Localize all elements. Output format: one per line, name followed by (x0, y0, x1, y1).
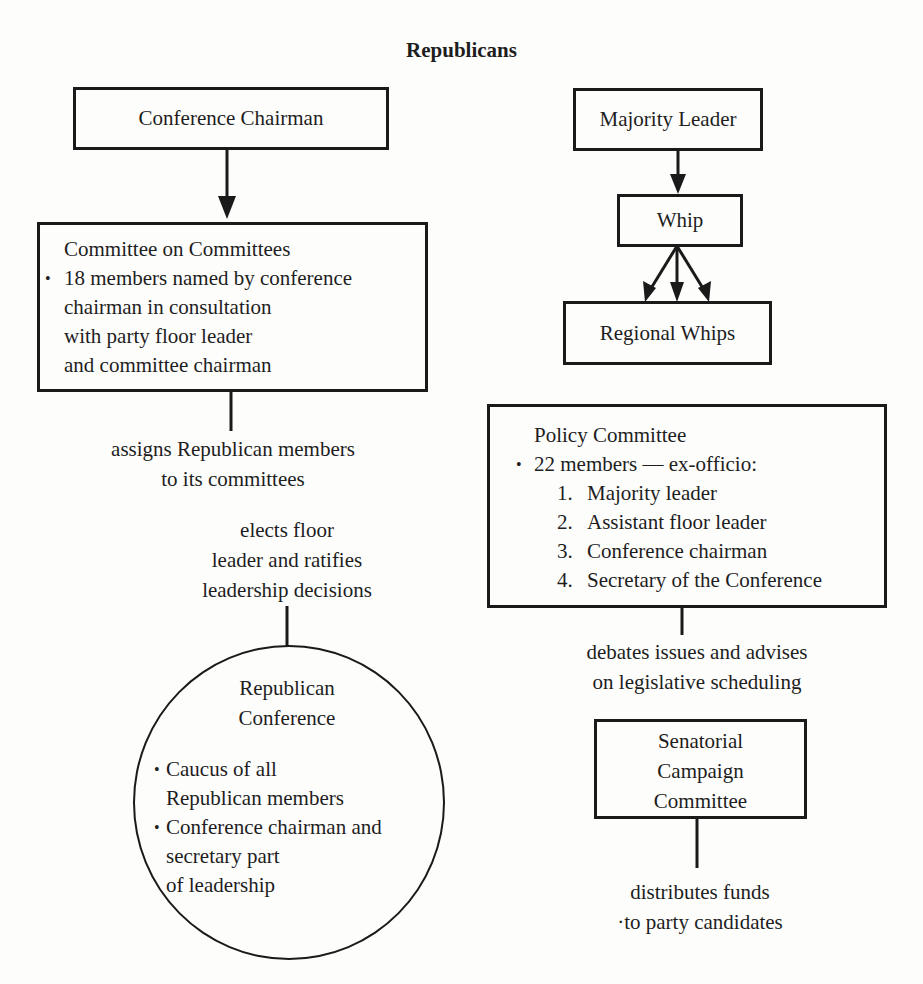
elects-floor-leader-note: elects floor leader and ratifies leaders… (167, 515, 407, 605)
regional-whips-label: Regional Whips (600, 321, 736, 346)
senatorial-campaign-committee-box: Senatorial Campaign Committee (594, 719, 807, 819)
policy-ex-officio-list: 1.Majority leader 2.Assistant floor lead… (534, 479, 884, 595)
policy-item-3: 3.Conference chairman (557, 537, 884, 566)
distributes-funds-note: distributes funds ·to party candidates (580, 877, 820, 937)
whip-label: Whip (657, 208, 704, 233)
committee-on-committees-box: Committee on Committees 18 members named… (37, 222, 428, 392)
debates-issues-note: debates issues and advises on legislativ… (547, 637, 847, 697)
policy-item-4: 4.Secretary of the Conference (557, 566, 884, 595)
conference-chairman-label: Conference Chairman (139, 106, 324, 131)
policy-item-2: 2.Assistant floor leader (557, 508, 884, 537)
majority-leader-label: Majority Leader (599, 107, 736, 132)
conference-chairman-box: Conference Chairman (73, 87, 389, 150)
arrows-whip-to-regional-whips (643, 246, 711, 302)
arrow-majority-leader-to-whip (670, 150, 686, 194)
conference-bullet-caucus: Caucus of all Republican members (148, 755, 450, 813)
regional-whips-box: Regional Whips (563, 301, 772, 365)
republican-conference-title: Republican Conference (187, 673, 387, 733)
policy-committee-box: Policy Committee 22 members — ex-officio… (487, 404, 887, 608)
policy-committee-title: Policy Committee (534, 421, 884, 450)
policy-item-1: 1.Majority leader (557, 479, 884, 508)
committee-membership-bullet: 18 members named by conference chairman … (39, 264, 425, 380)
republican-conference-bullets: Caucus of all Republican members Confere… (150, 755, 450, 900)
assigns-members-note: assigns Republican members to its commit… (83, 434, 383, 494)
whip-box: Whip (617, 194, 743, 247)
senatorial-campaign-committee-label: Senatorial Campaign Committee (597, 726, 804, 816)
policy-membership-bullet: 22 members — ex-officio: (510, 450, 884, 479)
majority-leader-box: Majority Leader (573, 88, 763, 151)
conference-bullet-leadership: Conference chairman and secretary part o… (148, 813, 450, 900)
committee-on-committees-title: Committee on Committees (63, 235, 425, 264)
arrow-chairman-to-committee (218, 149, 236, 219)
